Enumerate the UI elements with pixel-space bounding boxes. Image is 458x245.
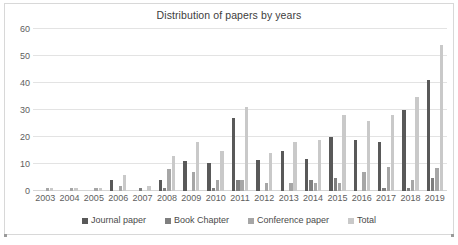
x-tick-label: 2017	[376, 194, 396, 203]
bar[interactable]	[362, 172, 365, 191]
bar-group	[301, 29, 325, 191]
bar[interactable]	[240, 180, 243, 191]
legend-label: Conference paper	[257, 216, 329, 225]
legend-swatch-icon	[82, 218, 88, 224]
x-tick-label: 2004	[60, 194, 80, 203]
bar[interactable]	[50, 188, 53, 191]
bar[interactable]	[289, 183, 292, 191]
bar-group	[277, 29, 301, 191]
bar[interactable]	[236, 180, 239, 191]
legend-item[interactable]: Journal paper	[82, 216, 146, 225]
x-tick-label: 2009	[181, 194, 201, 203]
legend-swatch-icon	[348, 218, 354, 224]
legend-label: Book Chapter	[174, 216, 229, 225]
bar[interactable]	[159, 180, 162, 191]
bar[interactable]	[207, 163, 210, 191]
bar[interactable]	[293, 142, 296, 191]
bar-group	[82, 29, 106, 191]
legend-swatch-icon	[248, 218, 254, 224]
bar[interactable]	[139, 188, 142, 191]
x-tick-label: 2012	[254, 194, 274, 203]
x-tick-label: 2008	[157, 194, 177, 203]
bar[interactable]	[192, 172, 195, 191]
y-tick-label: 30	[8, 106, 30, 115]
x-tick-label: 2003	[35, 194, 55, 203]
bar-group	[203, 29, 227, 191]
legend-item[interactable]: Book Chapter	[165, 216, 229, 225]
bar[interactable]	[387, 167, 390, 191]
bar-group	[228, 29, 252, 191]
bar-group	[155, 29, 179, 191]
legend-item[interactable]: Conference paper	[248, 216, 329, 225]
bar[interactable]	[354, 140, 357, 191]
bar[interactable]	[382, 188, 385, 191]
bar[interactable]	[329, 137, 332, 191]
bar[interactable]	[391, 115, 394, 191]
plot-area	[33, 29, 447, 191]
bar[interactable]	[212, 188, 215, 191]
bar[interactable]	[334, 178, 337, 192]
bar[interactable]	[435, 168, 438, 191]
bar[interactable]	[220, 151, 223, 192]
y-tick-label: 0	[8, 187, 30, 196]
figure-corner-marker-left	[4, 234, 7, 237]
x-axis: 2003200420052006200720082009201020112012…	[33, 194, 447, 208]
x-tick-label: 2016	[352, 194, 372, 203]
bar[interactable]	[431, 178, 434, 192]
bar[interactable]	[305, 159, 308, 191]
bar-group	[130, 29, 154, 191]
bar[interactable]	[123, 175, 126, 191]
bar[interactable]	[94, 188, 97, 191]
x-tick-label: 2006	[108, 194, 128, 203]
bar[interactable]	[256, 160, 259, 191]
bar[interactable]	[196, 142, 199, 191]
bar[interactable]	[269, 153, 272, 191]
x-tick-label: 2018	[400, 194, 420, 203]
bar[interactable]	[415, 97, 418, 192]
bars-layer	[33, 29, 447, 191]
bar[interactable]	[119, 186, 122, 191]
bar[interactable]	[427, 80, 430, 191]
bar[interactable]	[74, 188, 77, 191]
bar[interactable]	[46, 188, 49, 191]
bar-group	[179, 29, 203, 191]
legend-label: Journal paper	[91, 216, 146, 225]
chart-title: Distribution of papers by years	[0, 9, 458, 21]
bar[interactable]	[342, 115, 345, 191]
bar[interactable]	[147, 186, 150, 191]
bar[interactable]	[245, 107, 248, 191]
bar[interactable]	[70, 188, 73, 191]
bar-group	[374, 29, 398, 191]
bar[interactable]	[163, 188, 166, 191]
bar-group	[33, 29, 57, 191]
y-tick-label: 50	[8, 52, 30, 61]
bar[interactable]	[440, 45, 443, 191]
x-tick-label: 2010	[206, 194, 226, 203]
bar[interactable]	[232, 118, 235, 191]
chart-figure: Distribution of papers by years 01020304…	[0, 0, 458, 245]
bar[interactable]	[338, 183, 341, 191]
y-tick-label: 10	[8, 160, 30, 169]
bar[interactable]	[172, 156, 175, 191]
bar[interactable]	[110, 180, 113, 191]
bar[interactable]	[216, 180, 219, 191]
legend-label: Total	[357, 216, 376, 225]
bar[interactable]	[281, 151, 284, 192]
y-axis: 0102030405060	[8, 29, 30, 191]
bar[interactable]	[314, 183, 317, 191]
bar[interactable]	[167, 169, 170, 191]
bar[interactable]	[378, 142, 381, 191]
bar[interactable]	[411, 180, 414, 191]
bar[interactable]	[183, 161, 186, 191]
bar[interactable]	[309, 180, 312, 191]
bar[interactable]	[318, 140, 321, 191]
legend-item[interactable]: Total	[348, 216, 376, 225]
bar[interactable]	[99, 188, 102, 191]
bar-group	[398, 29, 422, 191]
bar[interactable]	[367, 121, 370, 191]
x-tick-label: 2007	[133, 194, 153, 203]
bar[interactable]	[265, 183, 268, 191]
y-tick-label: 60	[8, 25, 30, 34]
bar[interactable]	[402, 110, 405, 191]
bar[interactable]	[407, 188, 410, 191]
